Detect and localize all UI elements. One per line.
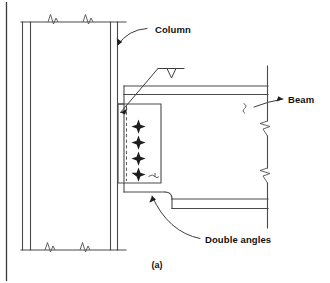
column-shape [21,22,126,250]
figure-container: Column Beam Double angles (a) [0,0,330,283]
double-angles-label: Double angles [205,234,271,245]
beam-leader [243,96,283,113]
bolt-3 [131,152,145,166]
connection-detail-drawing: Column Beam Double angles (a) [0,0,330,283]
column-break-symbol-top-left [48,15,58,25]
figure-caption: (a) [152,260,163,270]
beam-label: Beam [288,94,314,105]
weld-symbol [121,69,185,115]
column-break-symbol-top-right [83,15,93,25]
column-leader [117,29,147,46]
bolt-2 [131,136,145,150]
beam-shape [124,66,268,228]
column-break-symbol-bottom-left [45,243,55,253]
bolt-4 [131,168,145,182]
bolt-group [131,120,145,182]
beam-break-symbol-upper [260,121,270,136]
column-label: Column [155,24,191,35]
bolt-1 [131,120,145,134]
beam-break-symbol-lower [260,168,270,183]
column-break-symbol-bottom-right [80,243,90,253]
